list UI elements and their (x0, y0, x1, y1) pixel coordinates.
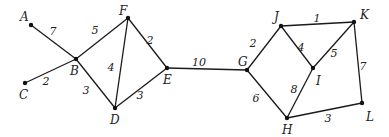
node-b (74, 57, 78, 61)
edge-d-e (115, 68, 167, 108)
node-label-e: E (162, 73, 172, 87)
node-label-c: C (19, 88, 28, 102)
edge-weight-b-d: 3 (83, 84, 90, 97)
edge-b-f (76, 18, 128, 59)
edge-weight-g-h: 6 (253, 92, 260, 105)
node-c (23, 81, 27, 85)
edge-weight-g-j: 2 (249, 37, 257, 50)
edge-weights: 72534231026145873 (42, 12, 367, 125)
weighted-graph-diagram: 72534231026145873 ABCFDEGJKILH (0, 0, 389, 137)
node-label-f: F (118, 4, 128, 18)
node-label-b: B (69, 64, 79, 78)
edge-weight-k-i: 5 (331, 47, 338, 60)
node-j (279, 24, 283, 28)
node-d (113, 106, 117, 110)
node-e (165, 66, 169, 70)
edge-weight-b-f: 5 (92, 24, 99, 37)
edge-c-b (25, 59, 76, 83)
node-label-d: D (109, 113, 120, 127)
edge-weight-k-l: 7 (360, 60, 367, 73)
edge-weight-f-e: 2 (146, 34, 154, 47)
node-label-k: K (359, 8, 370, 22)
node-l (360, 101, 364, 105)
edge-k-i (313, 22, 354, 68)
node-label-h: H (281, 123, 293, 137)
edge-weight-f-d: 4 (107, 61, 115, 74)
edge-weight-j-i: 4 (297, 41, 305, 54)
node-label-g: G (238, 55, 248, 69)
edge-weight-c-b: 2 (42, 75, 50, 88)
edge-weight-e-g: 10 (192, 56, 206, 69)
edge-weight-h-l: 3 (325, 112, 332, 125)
node-label-j: J (271, 10, 280, 24)
edge-weight-j-k: 1 (314, 12, 321, 25)
node-label-i: I (315, 74, 321, 88)
edge-weight-d-e: 3 (137, 89, 144, 102)
node-label-a: A (19, 10, 29, 24)
node-h (285, 116, 289, 120)
edge-f-d (115, 18, 128, 108)
node-label-l: L (365, 110, 374, 124)
node-k (352, 20, 356, 24)
edge-weight-i-h: 8 (291, 83, 298, 96)
node-i (311, 66, 315, 70)
edge-e-g (167, 68, 247, 70)
node-a (29, 23, 33, 27)
edge-weight-a-b: 7 (50, 25, 57, 38)
